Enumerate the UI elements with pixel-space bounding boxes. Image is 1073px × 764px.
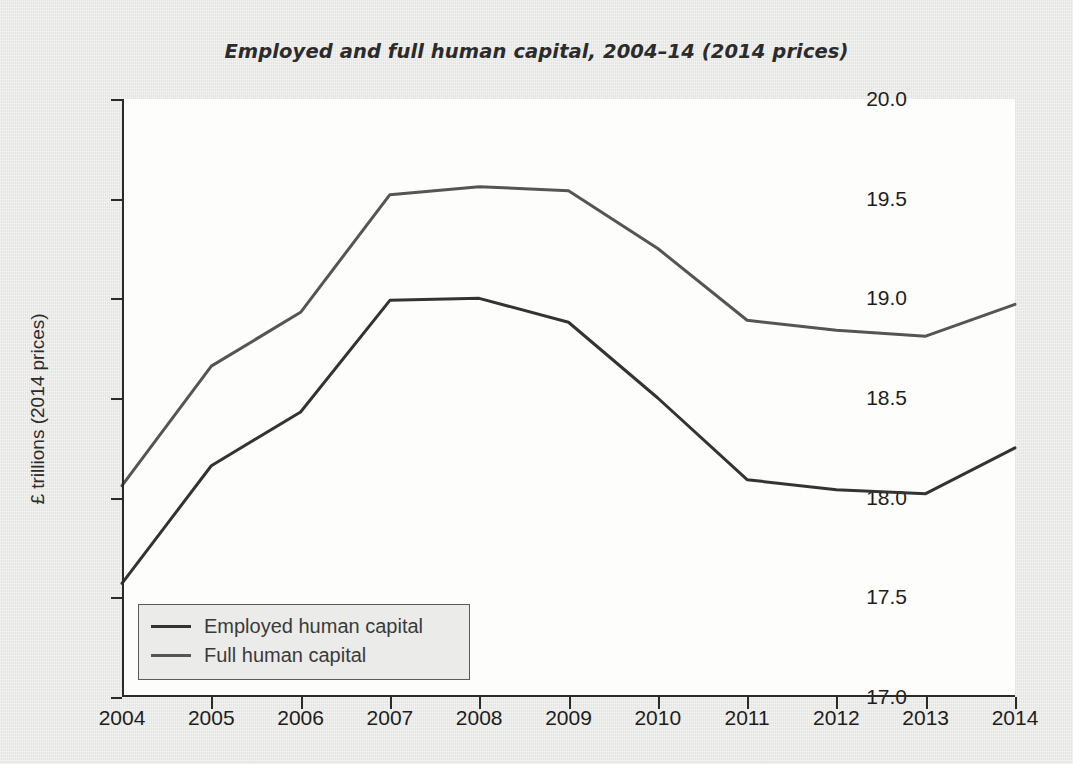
legend-swatch-full — [151, 654, 191, 657]
x-tick-label: 2014 — [960, 706, 1070, 730]
series-line-employed-human-capital — [122, 298, 1015, 583]
y-tick-mark — [111, 99, 122, 101]
legend-label-employed: Employed human capital — [204, 615, 423, 638]
legend-swatch-employed — [151, 625, 191, 628]
y-tick-mark — [111, 597, 122, 599]
legend: Employed human capital Full human capita… — [138, 604, 470, 680]
legend-item-employed-human-capital: Employed human capital — [151, 612, 457, 641]
y-tick-mark — [111, 298, 122, 300]
y-axis-label: £ trillions (2014 prices) — [27, 279, 49, 539]
y-tick-mark — [111, 199, 122, 201]
y-tick-mark — [111, 498, 122, 500]
legend-item-full-human-capital: Full human capital — [151, 641, 457, 670]
legend-label-full: Full human capital — [204, 644, 366, 667]
y-tick-mark — [111, 398, 122, 400]
series-line-full-human-capital — [122, 187, 1015, 486]
figure-page: Employed and full human capital, 2004–14… — [0, 0, 1073, 764]
y-tick-mark — [111, 697, 122, 699]
chart-title: Employed and full human capital, 2004–14… — [0, 40, 1073, 63]
